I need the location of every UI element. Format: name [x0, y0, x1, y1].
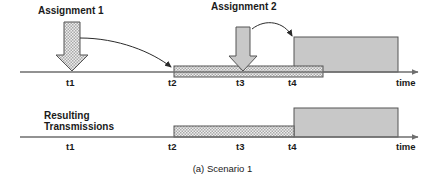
tick-label-top-t2: t2 [168, 78, 176, 89]
axis-label-top-time: time [396, 78, 416, 89]
solid-box-bottom [294, 108, 398, 137]
hatched-bar-bottom [174, 126, 294, 137]
tick-label-bottom-t3: t3 [236, 142, 244, 153]
axis-label-bottom-time: time [396, 142, 416, 153]
resulting-transmissions-line2: Transmissions [44, 121, 114, 132]
diagram-canvas [0, 0, 445, 189]
assignment1-block-arrow [56, 22, 88, 71]
assignment1-curve-arrow [80, 38, 171, 67]
assignment2-block-arrow [229, 27, 257, 71]
tick-label-top-t4: t4 [288, 78, 296, 89]
assignment2-label: Assignment 2 [211, 1, 277, 12]
resulting-transmissions-label: ResultingTransmissions [44, 110, 114, 132]
tick-label-top-t1: t1 [66, 78, 74, 89]
scenario-timing-diagram: Assignment 1 Assignment 2 ResultingTrans… [0, 0, 445, 189]
assignment1-label: Assignment 1 [38, 5, 104, 16]
resulting-transmissions-line1: Resulting [44, 110, 90, 121]
tick-label-bottom-t2: t2 [168, 142, 176, 153]
tick-label-bottom-t1: t1 [66, 142, 74, 153]
tick-label-top-t3: t3 [236, 78, 244, 89]
assignment2-curve-arrow [252, 23, 292, 36]
tick-label-bottom-t4: t4 [288, 142, 296, 153]
figure-caption: (a) Scenario 1 [0, 164, 445, 175]
